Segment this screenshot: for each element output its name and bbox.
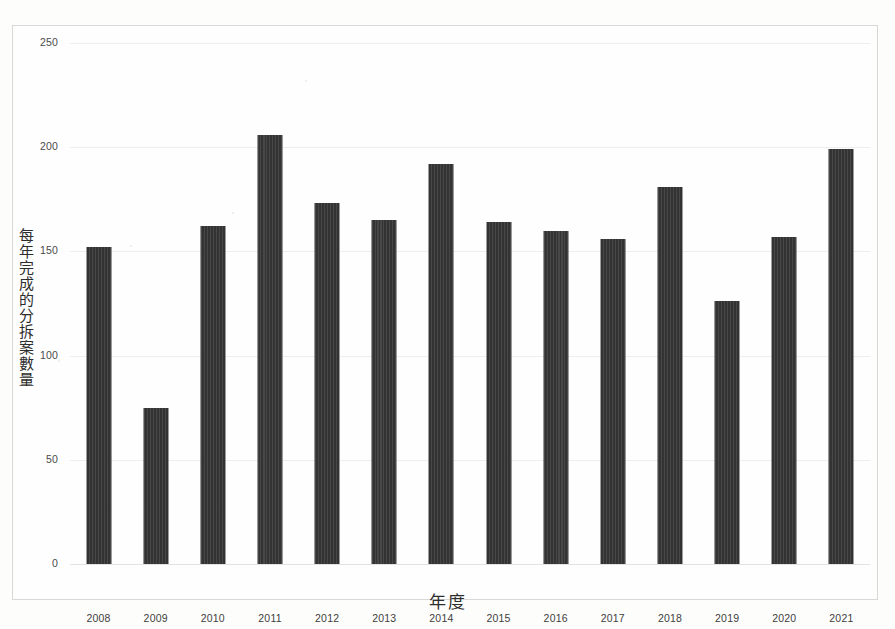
bar bbox=[829, 149, 854, 564]
bar-slot bbox=[470, 43, 527, 564]
bar bbox=[772, 237, 797, 564]
x-axis-tick-label: 2016 bbox=[526, 613, 586, 624]
chart-figure: 每年完成的分拆案數量 050100150200250 2008200920102… bbox=[0, 0, 895, 629]
bar-slot bbox=[184, 43, 241, 564]
bar-series: 2008200920102011201220132014201520162017… bbox=[70, 43, 870, 564]
bar bbox=[315, 203, 340, 564]
bar-slot bbox=[584, 43, 641, 564]
bar-slot bbox=[813, 43, 870, 564]
bar-slot bbox=[70, 43, 127, 564]
bar-slot bbox=[299, 43, 356, 564]
bar-slot bbox=[641, 43, 698, 564]
x-axis-tick-label: 2008 bbox=[69, 613, 129, 624]
bar-slot bbox=[241, 43, 298, 564]
x-axis-title: 年度 bbox=[0, 588, 895, 613]
y-axis-title-char: 完 bbox=[19, 259, 34, 276]
y-axis-tick-label: 50 bbox=[14, 454, 58, 465]
bar-slot bbox=[756, 43, 813, 564]
x-axis-tick-label: 2017 bbox=[583, 613, 643, 624]
bar bbox=[143, 408, 168, 564]
bar bbox=[257, 135, 282, 564]
x-axis-tick-label: 2019 bbox=[697, 613, 757, 624]
x-axis-tick-label: 2021 bbox=[811, 613, 871, 624]
y-axis-tick-label: 0 bbox=[14, 558, 58, 569]
y-axis-tick-label: 250 bbox=[14, 37, 58, 48]
bar bbox=[657, 187, 682, 564]
bar-slot bbox=[413, 43, 470, 564]
bar bbox=[372, 220, 397, 564]
y-axis-tick-label: 100 bbox=[14, 350, 58, 361]
x-axis-tick-label: 2009 bbox=[126, 613, 186, 624]
bar bbox=[715, 301, 740, 564]
bar-slot bbox=[527, 43, 584, 564]
y-axis-title-char: 的 bbox=[19, 291, 34, 308]
scan-speckle bbox=[58, 360, 60, 362]
x-axis-tick-label: 2012 bbox=[297, 613, 357, 624]
y-axis-title-char: 拆 bbox=[19, 323, 34, 340]
bar-slot bbox=[699, 43, 756, 564]
x-axis-tick-label: 2014 bbox=[411, 613, 471, 624]
bar bbox=[543, 231, 568, 564]
bar bbox=[86, 247, 111, 564]
y-axis-tick-label: 200 bbox=[14, 141, 58, 152]
bar bbox=[486, 222, 511, 564]
x-axis-tick-label: 2018 bbox=[640, 613, 700, 624]
x-axis-tick-label: 2010 bbox=[183, 613, 243, 624]
gridline bbox=[70, 564, 870, 565]
x-axis-tick-label: 2013 bbox=[354, 613, 414, 624]
x-axis-tick-label: 2020 bbox=[754, 613, 814, 624]
x-axis-tick-label: 2015 bbox=[469, 613, 529, 624]
y-axis-title-char: 分 bbox=[19, 307, 34, 324]
y-axis-tick-label: 150 bbox=[14, 245, 58, 256]
bar bbox=[429, 164, 454, 564]
bar bbox=[200, 226, 225, 564]
bar-slot bbox=[127, 43, 184, 564]
y-axis-title-char: 每 bbox=[19, 227, 34, 244]
y-axis-title-char: 量 bbox=[19, 371, 34, 388]
bar-slot bbox=[356, 43, 413, 564]
x-axis-tick-label: 2011 bbox=[240, 613, 300, 624]
y-axis-title-char: 成 bbox=[19, 275, 34, 292]
bar bbox=[600, 239, 625, 564]
